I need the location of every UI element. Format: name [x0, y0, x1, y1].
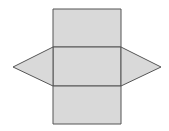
top-rectangle-face — [53, 9, 121, 47]
prism-net-svg — [0, 0, 169, 131]
middle-rectangle-face — [53, 47, 121, 86]
prism-net-diagram — [0, 0, 169, 131]
bottom-rectangle-face — [53, 86, 121, 124]
right-triangle-face — [121, 47, 161, 86]
left-triangle-face — [13, 47, 53, 86]
